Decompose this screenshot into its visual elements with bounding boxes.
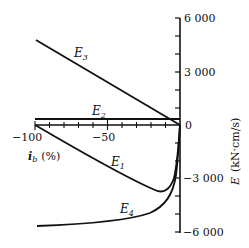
- x-tick-label-m100: −100: [12, 131, 42, 144]
- series-label-e4: E4: [119, 202, 134, 218]
- chart: 6 000 3 000 0 −3 000 −6 000 −100 −50 ib(…: [0, 0, 249, 248]
- series-label-e2: E2: [91, 104, 106, 120]
- y-tick-label-m3000: −3 000: [183, 172, 224, 185]
- chart-svg: 6 000 3 000 0 −3 000 −6 000 −100 −50 ib(…: [0, 0, 249, 248]
- series-label-e1: E1: [110, 155, 125, 171]
- series-label-e3: E3: [73, 46, 88, 62]
- y-tick-label-m6000: −6 000: [183, 226, 224, 239]
- x-axis-title: ib(%): [28, 150, 60, 164]
- y-tick-label-3000: 3 000: [184, 66, 216, 79]
- y-tick-label-6000: 6 000: [184, 12, 216, 25]
- x-tick-label-m50: −50: [92, 131, 115, 144]
- y-axis-title: E(kN·cm/s): [229, 118, 242, 186]
- y-tick-label-0: 0: [185, 119, 192, 132]
- series-e3-line: [36, 40, 180, 125]
